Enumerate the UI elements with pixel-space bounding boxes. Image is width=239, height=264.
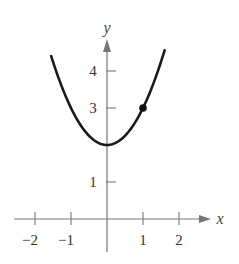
y-tick-label: 1 — [89, 174, 97, 190]
axes — [14, 39, 211, 252]
x-axis-label: x — [215, 210, 223, 227]
x-tick-label: 2 — [175, 232, 183, 248]
x-tick-label: 1 — [139, 232, 147, 248]
parabola-plot: −2−112134xy — [0, 0, 239, 264]
y-axis-arrow-icon — [103, 39, 111, 52]
parabola-path — [51, 50, 164, 145]
tick-labels: −2−112134xy — [22, 19, 224, 248]
highlighted-point — [139, 104, 147, 112]
parabola-curve — [51, 50, 164, 145]
y-axis-label: y — [101, 19, 111, 37]
point-marker-icon — [139, 104, 147, 112]
y-tick-label: 3 — [89, 100, 97, 116]
x-tick-label: −1 — [58, 232, 74, 248]
y-tick-label: 4 — [89, 63, 97, 79]
x-tick-label: −2 — [22, 232, 38, 248]
x-axis-arrow-icon — [199, 215, 211, 223]
